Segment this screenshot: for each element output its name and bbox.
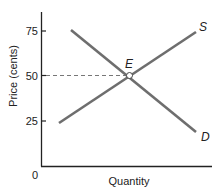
y-tick-75: 75 <box>26 25 38 37</box>
equilibrium-label: E <box>125 57 134 71</box>
y-tick-25: 25 <box>26 115 38 127</box>
y-axis-label: Price (cents) <box>7 45 19 107</box>
y-tick-50: 50 <box>26 70 38 82</box>
x-axis-label: Quantity <box>109 175 150 187</box>
origin-label: 0 <box>32 169 38 181</box>
supply-demand-chart: 75 50 25 0 Quantity Price (cents) E S D <box>0 0 218 196</box>
supply-label: S <box>199 20 207 34</box>
demand-label: D <box>201 130 210 144</box>
equilibrium-point <box>127 73 133 79</box>
